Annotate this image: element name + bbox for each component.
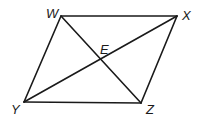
vertex-label-w: W <box>46 6 60 21</box>
parallelogram-diagram: W X Y Z E <box>0 0 204 120</box>
diagonal-xy <box>24 16 177 102</box>
side-zy <box>24 102 141 103</box>
vertex-label-x: X <box>181 8 192 23</box>
diagram-canvas: W X Y Z E <box>0 0 204 120</box>
vertex-label-y: Y <box>11 102 21 117</box>
vertex-label-z: Z <box>145 102 155 117</box>
side-yw <box>24 16 61 102</box>
intersection-label-e: E <box>100 42 109 57</box>
side-xz <box>141 16 177 103</box>
